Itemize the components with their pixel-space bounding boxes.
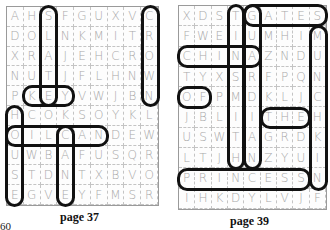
grid-cell: S [310,6,326,26]
grid-cell: F [74,146,91,166]
grid-cell: U [7,146,24,166]
grid-cell: Q [293,67,309,87]
grid-cell: D [244,87,260,107]
grid-cell: L [91,66,108,86]
grid-cell: U [91,146,108,166]
grid-cell: Q [124,146,141,166]
grid-cell: J [212,148,228,168]
grid-cell: I [212,168,228,188]
grid-cell: F [179,26,195,46]
grid-cell: F [261,67,277,87]
grid-cell: P [212,87,228,107]
grid-cell: H [7,106,24,126]
grid-cell: R [141,146,158,166]
grid-cell: A [7,7,24,27]
grid-cell: S [124,185,141,205]
grid-cell: B [195,107,211,127]
grid-cell: H [108,66,125,86]
grid-cell: N [310,67,326,87]
grid-cell: E [7,185,24,205]
grid-cell: M [108,185,125,205]
grid-cell: W [195,26,211,46]
grid-cell: D [41,165,58,185]
grid-cell: V [277,189,293,209]
grid-cell: G [24,185,41,205]
grid-cell: G [261,128,277,148]
grid-cell: J [179,107,195,127]
grid-cell: U [179,128,195,148]
grid-cell: C [179,47,195,67]
grid-cell: J [57,47,74,67]
grid-cell: V [74,86,91,106]
grid-cell: H [91,47,108,67]
grid-cell: T [74,165,91,185]
grid-cell: U [244,26,260,46]
grid-cell: R [277,128,293,148]
grid-cell: R [244,67,260,87]
grid-cell: S [108,146,125,166]
grid-cell: K [57,106,74,126]
grid-cell: C [24,106,41,126]
grid-cell: H [195,47,211,67]
grid-cell: E [57,185,74,205]
grid-cell: U [293,148,309,168]
grid-cell: A [244,47,260,67]
grid-cell: L [41,126,58,146]
grid-cell: L [261,189,277,209]
grid-cell: W [141,126,158,146]
grid-cell: K [24,86,41,106]
grid-cell: T [261,107,277,127]
grid-cell: H [195,189,211,209]
grid-cell: P [179,168,195,188]
grid-cell: M [310,26,326,46]
grid-cell: I [179,189,195,209]
grid-cell: O [7,126,24,146]
grid-cell: W [212,128,228,148]
grid-cell: X [108,7,125,27]
grid-cell: C [244,168,260,188]
grid-cell: U [24,66,41,86]
grid-cell: V [124,165,141,185]
grid-cell: E [74,47,91,67]
grid-cell: I [228,26,244,46]
grid-cell: J [57,66,74,86]
grid-cell: S [212,6,228,26]
grid-cell: I [228,107,244,127]
grid-cell: J [108,86,125,106]
grid-cell: P [277,67,293,87]
grid-cell: W [141,66,158,86]
grid-cell: K [124,106,141,126]
word-search-page-39: XDSTGATESFWEIUMHIMCHINAZNDUTYXSRFPQNOFPM… [178,5,327,210]
grid-cell: I [293,26,309,46]
grid-cell: B [41,146,58,166]
grid-cell: E [41,86,58,106]
grid-cell: A [244,128,260,148]
caption-page-39: page 39 [230,214,269,229]
grid-cell: Z [261,148,277,168]
grid-cell: H [228,148,244,168]
grid-cell: Y [277,148,293,168]
grid-cell: K [212,189,228,209]
grid-cell: J [293,87,309,107]
grid-cell: H [24,7,41,27]
grid-cell: A [57,146,74,166]
grid-cell: L [212,107,228,127]
word-search-page-37: AHSFGUXVCDOLNKMITRXRAJEHCRONUTJFLHNWPKEY… [6,6,159,206]
grid-cell: C [310,87,326,107]
grid-cell: U [91,7,108,27]
grid-cell: I [244,107,260,127]
grid-cell: T [24,165,41,185]
grid-cell: M [91,27,108,47]
grid-cell: F [74,66,91,86]
grid-cell: L [277,87,293,107]
grid-cell: X [179,6,195,26]
grid-cell: F [195,87,211,107]
grid-cell: I [24,126,41,146]
grid-cell: H [277,107,293,127]
grid-cell: K [74,27,91,47]
grid-cell: C [108,47,125,67]
grid-cell: E [212,26,228,46]
grid-cell: O [41,106,58,126]
grid-cell: X [212,67,228,87]
grid-cell: H [310,107,326,127]
